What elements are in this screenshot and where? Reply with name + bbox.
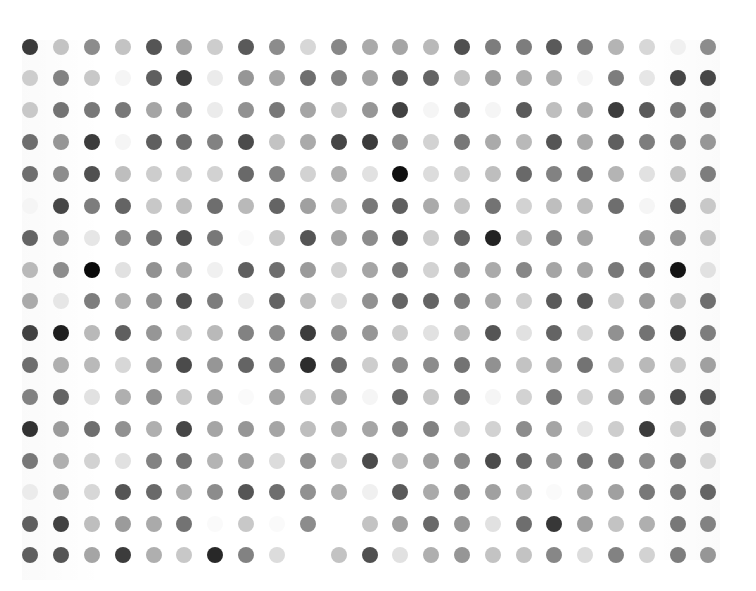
dot — [485, 484, 501, 500]
dot — [485, 357, 501, 373]
dot — [362, 421, 378, 437]
dot — [22, 39, 38, 55]
dot — [608, 230, 624, 246]
dot — [331, 293, 347, 309]
dot — [577, 102, 593, 118]
dot — [269, 484, 285, 500]
dot — [577, 39, 593, 55]
dot — [639, 293, 655, 309]
dot — [300, 453, 316, 469]
dot — [516, 547, 532, 563]
dot — [392, 166, 408, 182]
dot — [577, 389, 593, 405]
dot — [577, 484, 593, 500]
dot — [53, 357, 69, 373]
dot — [176, 484, 192, 500]
dot — [362, 453, 378, 469]
dot — [639, 484, 655, 500]
dot — [485, 70, 501, 86]
dot — [207, 389, 223, 405]
dot — [423, 516, 439, 532]
dot — [22, 70, 38, 86]
dot — [670, 293, 686, 309]
dot — [700, 198, 716, 214]
dot — [392, 102, 408, 118]
dot — [146, 230, 162, 246]
dot — [546, 70, 562, 86]
dot — [546, 198, 562, 214]
dot — [207, 516, 223, 532]
dot — [392, 198, 408, 214]
dot — [22, 453, 38, 469]
dot — [700, 134, 716, 150]
dot — [454, 389, 470, 405]
dot — [608, 262, 624, 278]
dot — [300, 357, 316, 373]
dot — [392, 134, 408, 150]
dot — [238, 325, 254, 341]
dot — [269, 516, 285, 532]
dot — [700, 453, 716, 469]
dot — [22, 484, 38, 500]
dot — [670, 389, 686, 405]
dot — [700, 484, 716, 500]
dot — [516, 230, 532, 246]
dot — [392, 325, 408, 341]
dot — [454, 516, 470, 532]
dot — [115, 166, 131, 182]
dot — [300, 484, 316, 500]
dot — [269, 325, 285, 341]
dot — [516, 262, 532, 278]
dot — [577, 325, 593, 341]
dot — [22, 389, 38, 405]
dot — [207, 102, 223, 118]
dot — [546, 357, 562, 373]
dot — [238, 421, 254, 437]
dot — [670, 166, 686, 182]
dot — [670, 230, 686, 246]
dot — [331, 516, 347, 532]
dot — [207, 453, 223, 469]
dot — [115, 357, 131, 373]
dot — [516, 166, 532, 182]
dot-grid-artwork — [0, 0, 756, 591]
dot — [84, 293, 100, 309]
dot — [115, 198, 131, 214]
dot — [392, 357, 408, 373]
dot — [608, 421, 624, 437]
dot — [269, 357, 285, 373]
dot — [485, 134, 501, 150]
dot — [53, 547, 69, 563]
dot — [516, 453, 532, 469]
dot — [700, 421, 716, 437]
dot — [207, 198, 223, 214]
dot — [146, 421, 162, 437]
dot — [176, 516, 192, 532]
dot — [146, 166, 162, 182]
dot — [146, 198, 162, 214]
dot — [485, 102, 501, 118]
dot — [423, 39, 439, 55]
dot — [84, 484, 100, 500]
dot — [300, 134, 316, 150]
dot — [546, 39, 562, 55]
dot — [300, 293, 316, 309]
dot — [207, 325, 223, 341]
dot — [423, 70, 439, 86]
dot — [485, 166, 501, 182]
dot — [362, 39, 378, 55]
dot — [115, 70, 131, 86]
dot — [608, 357, 624, 373]
dot — [639, 516, 655, 532]
dot — [53, 516, 69, 532]
dot — [423, 293, 439, 309]
dot — [423, 453, 439, 469]
dot — [207, 484, 223, 500]
dot — [639, 39, 655, 55]
dot — [269, 230, 285, 246]
dot — [22, 516, 38, 532]
dot — [577, 134, 593, 150]
dot — [115, 421, 131, 437]
dot — [670, 516, 686, 532]
dot — [269, 389, 285, 405]
